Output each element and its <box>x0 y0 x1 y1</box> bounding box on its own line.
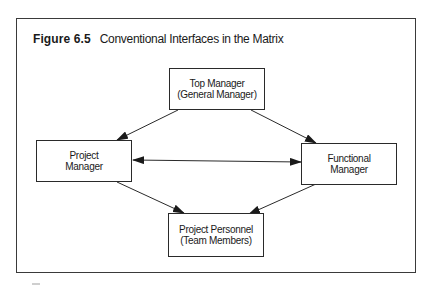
node-functional-manager: Functional Manager <box>301 143 397 185</box>
node-sublabel: (General Manager) <box>177 89 256 101</box>
node-label: Functional <box>327 153 370 165</box>
node-label: Project Personnel <box>179 224 253 236</box>
edge-top-to-project-manager <box>117 110 178 140</box>
node-project-manager: Project Manager <box>36 140 132 182</box>
edge-project-manager-to-personnel <box>117 182 184 213</box>
node-top-manager: Top Manager (General Manager) <box>169 68 265 110</box>
edge-top-to-functional-manager <box>251 110 316 143</box>
node-sublabel: Manager <box>330 164 367 176</box>
scan-artifact <box>32 283 40 285</box>
edge-project-functional-bidirectional <box>133 160 301 162</box>
node-label: Project <box>69 150 98 162</box>
edge-functional-manager-to-personnel <box>249 184 316 214</box>
node-label: Top Manager <box>189 78 244 90</box>
node-project-personnel: Project Personnel (Team Members) <box>168 213 264 257</box>
node-sublabel: (Team Members) <box>180 235 251 247</box>
node-sublabel: Manager <box>65 161 102 173</box>
